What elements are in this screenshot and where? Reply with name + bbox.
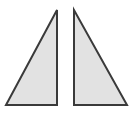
triangles-diagram <box>0 0 132 121</box>
figure-canvas <box>0 0 132 121</box>
